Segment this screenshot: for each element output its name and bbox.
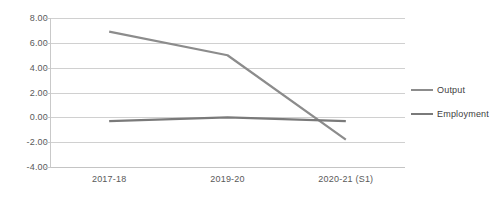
y-axis-tick xyxy=(45,142,50,143)
chart-legend: Output Employment xyxy=(411,85,489,119)
y-axis-tick xyxy=(45,117,50,118)
y-axis-tick xyxy=(45,18,50,19)
legend-item-employment[interactable]: Employment xyxy=(411,109,489,119)
legend-swatch-employment xyxy=(411,113,433,115)
y-axis-tick xyxy=(45,167,50,168)
legend-swatch-output xyxy=(411,89,433,91)
y-axis-tick xyxy=(45,68,50,69)
series-line-output xyxy=(109,32,346,140)
legend-label-output: Output xyxy=(437,85,465,95)
legend-label-employment: Employment xyxy=(437,109,489,119)
y-axis-tick xyxy=(45,93,50,94)
series-line-employment xyxy=(109,117,346,121)
line-chart: 8.006.004.002.000.00-2.00-4.00 2017-1820… xyxy=(0,0,496,199)
y-axis-tick xyxy=(45,43,50,44)
legend-item-output[interactable]: Output xyxy=(411,85,489,95)
